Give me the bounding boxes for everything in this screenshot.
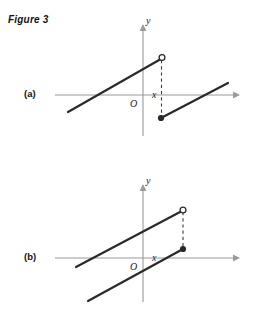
graph-line-a-left (68, 60, 160, 113)
panel-b-plot: x y O (0, 160, 255, 315)
origin-label-a: O (130, 98, 137, 109)
open-circle-a (159, 55, 165, 61)
open-circle-b (180, 207, 186, 213)
panel-a-plot: x y O (0, 0, 255, 160)
x-axis-label-b: x (151, 252, 157, 263)
x-axis-arrow-b (233, 255, 240, 262)
x-axis-label-a: x (151, 89, 157, 100)
y-axis-label-b: y (145, 175, 151, 186)
x-axis-arrow-a (233, 92, 240, 99)
origin-label-b: O (130, 261, 137, 272)
graph-line-b-lower (88, 249, 183, 301)
closed-dot-b (181, 247, 186, 252)
figure-root: Figure 3 (a) (b) x y O x y (0, 0, 255, 315)
closed-dot-a (159, 116, 164, 121)
graph-line-a-right (161, 83, 228, 118)
y-axis-label-a: y (145, 15, 151, 26)
